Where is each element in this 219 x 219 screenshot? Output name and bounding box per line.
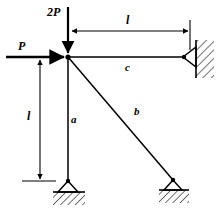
member-b-label: b (134, 106, 140, 117)
truss-diagram: 2P P l l a b c (0, 0, 219, 219)
support-wall-right (182, 40, 214, 78)
member-a-label: a (71, 114, 77, 125)
vertical-dimension-label: l (27, 110, 30, 122)
support-ground-left (53, 179, 85, 205)
load-2p-label: 2P (47, 6, 60, 18)
member-c-label: c (125, 62, 130, 73)
truss-members (68, 57, 184, 181)
diagram-canvas (0, 0, 219, 219)
member-b-line (68, 57, 173, 180)
horizontal-dimension (72, 20, 190, 50)
support-ground-right (159, 178, 189, 203)
top-joint-node (65, 54, 70, 59)
horizontal-dimension-label: l (126, 14, 129, 26)
load-p-label: P (18, 40, 25, 52)
